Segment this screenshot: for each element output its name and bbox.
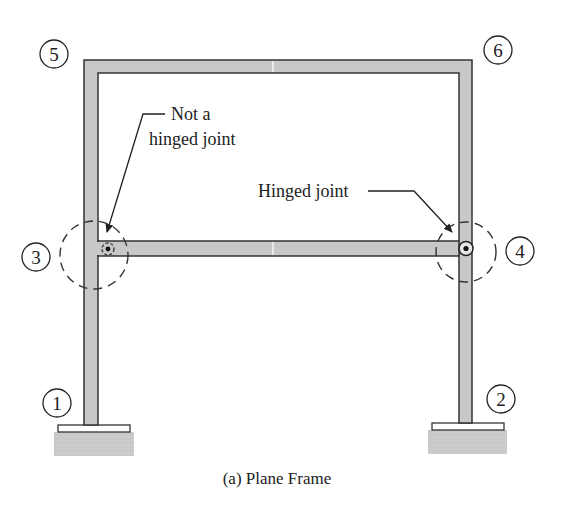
figure-caption: (a) Plane Frame: [223, 469, 332, 488]
ground-right: [428, 430, 507, 454]
plane-frame-diagram: 5 6 3 4 1 2 Not a hinged joint Hinged jo…: [0, 0, 565, 507]
svg-text:Not a: Not a: [171, 104, 211, 124]
svg-text:1: 1: [52, 393, 62, 414]
svg-text:6: 6: [493, 40, 503, 61]
svg-text:5: 5: [49, 44, 59, 65]
node-2-label: 2: [487, 385, 515, 413]
svg-text:4: 4: [515, 241, 525, 262]
base-plate-left: [58, 425, 130, 432]
node-1-label: 1: [43, 389, 71, 417]
svg-text:2: 2: [496, 389, 506, 410]
svg-text:hinged joint: hinged joint: [149, 129, 236, 149]
middle-beam: [98, 241, 459, 256]
ground-left: [54, 432, 134, 456]
node-3-label: 3: [22, 243, 50, 271]
hinged-annotation: Hinged joint: [258, 181, 452, 232]
svg-text:Hinged joint: Hinged joint: [258, 181, 349, 201]
node-6-label: 6: [484, 36, 512, 64]
hinge-icon: [459, 242, 473, 256]
node-5-label: 5: [40, 40, 68, 68]
not-hinged-annotation: Not a hinged joint: [107, 104, 236, 232]
svg-text:3: 3: [31, 247, 41, 268]
node-4-label: 4: [506, 237, 534, 265]
base-plate-right: [432, 423, 504, 430]
